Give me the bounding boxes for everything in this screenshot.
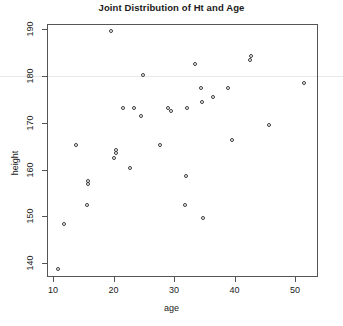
y-tick-mark (42, 76, 47, 77)
y-tick-label: 180 (25, 68, 35, 83)
y-tick-mark (42, 263, 47, 264)
y-tick-label: 160 (25, 162, 35, 177)
x-tick-mark (235, 277, 236, 282)
x-tick-label: 40 (230, 285, 240, 295)
x-tick-label: 50 (290, 285, 300, 295)
data-point (199, 86, 203, 90)
data-point (226, 86, 230, 90)
y-tick-mark (42, 216, 47, 217)
data-point (185, 106, 189, 110)
data-point (169, 109, 173, 113)
x-tick-label: 10 (48, 285, 58, 295)
x-axis-label: age (0, 303, 343, 313)
data-point (158, 143, 162, 147)
data-point (85, 203, 89, 207)
data-point (139, 114, 143, 118)
x-tick-mark (174, 277, 175, 282)
y-axis-label: height (10, 151, 20, 176)
data-point (184, 174, 188, 178)
x-tick-mark (114, 277, 115, 282)
data-point (141, 73, 145, 77)
y-tick-label: 140 (25, 256, 35, 271)
x-tick-mark (295, 277, 296, 282)
y-tick-label: 190 (25, 21, 35, 36)
data-point (201, 216, 205, 220)
data-point (128, 166, 132, 170)
page-title: Joint Distribution of Ht and Age (0, 2, 343, 13)
y-tick-mark (42, 29, 47, 30)
data-point (302, 81, 306, 85)
data-point (62, 222, 66, 226)
y-tick-label: 150 (25, 209, 35, 224)
data-point (114, 148, 118, 152)
y-tick-label: 170 (25, 115, 35, 130)
x-tick-label: 30 (169, 285, 179, 295)
scatter-plot-figure: Joint Distribution of Ht and Age 1401501… (0, 0, 343, 326)
data-point (183, 203, 187, 207)
y-tick-mark (42, 123, 47, 124)
data-point (267, 123, 271, 127)
plot-frame (47, 24, 318, 277)
y-tick-mark (42, 170, 47, 171)
data-point (74, 143, 78, 147)
x-tick-mark (53, 277, 54, 282)
x-tick-label: 20 (109, 285, 119, 295)
data-point (249, 54, 253, 58)
